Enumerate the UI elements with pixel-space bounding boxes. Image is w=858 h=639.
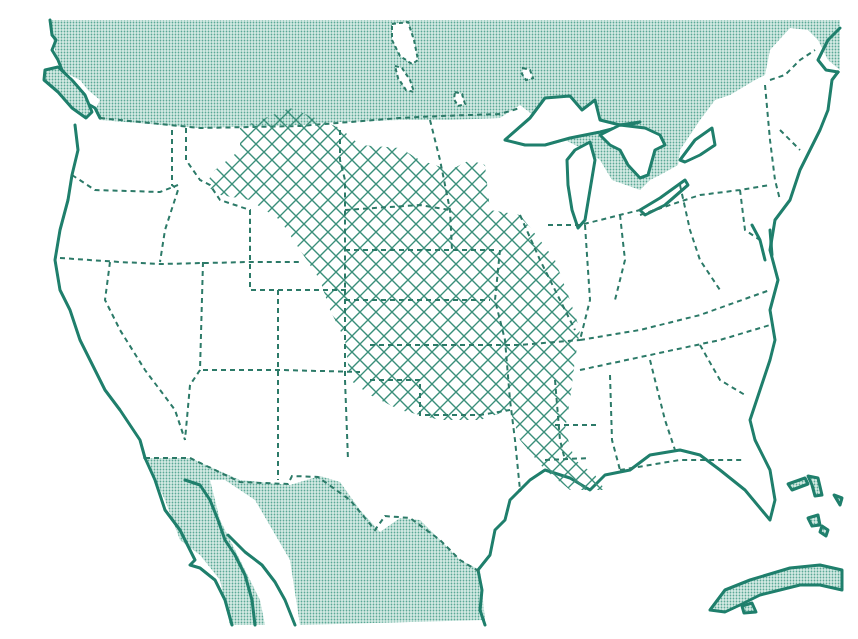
bahamas-island [808,476,822,496]
bahamas-island [788,478,808,490]
isle-of-youth [742,603,756,613]
hatched-range-region [205,108,605,490]
chesapeake-bay [752,225,772,260]
bahamas-island [808,515,820,526]
cuba-island [710,565,842,612]
bahamas-island [820,526,828,536]
us-map [0,0,858,639]
canada-region [50,20,840,190]
bahamas-island [834,495,842,505]
lake-michigan [567,142,595,228]
